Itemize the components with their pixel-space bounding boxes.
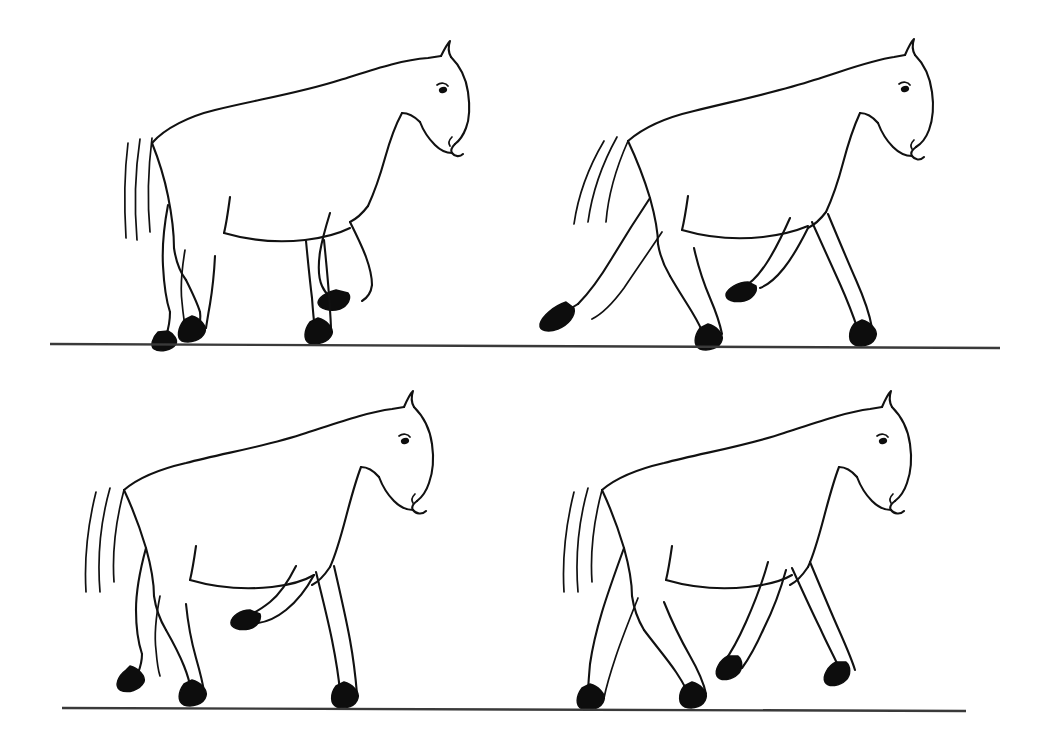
paper-background	[0, 0, 1052, 744]
horse-gait-illustration	[0, 0, 1052, 744]
illustration-canvas	[0, 0, 1052, 744]
hoof-hind-far-panel-1	[152, 331, 177, 351]
